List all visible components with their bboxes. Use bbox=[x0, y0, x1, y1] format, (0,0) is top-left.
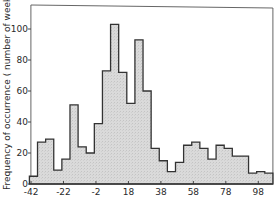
y-tick-label: 60 bbox=[16, 86, 28, 96]
histogram-bin bbox=[70, 105, 78, 184]
histogram-bin bbox=[38, 142, 46, 184]
x-tick-label: -22 bbox=[56, 187, 71, 197]
histogram-bin bbox=[167, 172, 175, 184]
histogram-bin bbox=[111, 24, 119, 184]
x-tick-label: -42 bbox=[24, 187, 39, 197]
y-axis-title: Frequency of occurrence ( number of week… bbox=[2, 0, 12, 190]
histogram-bin bbox=[240, 156, 248, 184]
histogram-bin bbox=[249, 173, 257, 184]
histogram-bin bbox=[46, 139, 54, 184]
histogram-bin bbox=[265, 173, 273, 184]
histogram-bin bbox=[192, 142, 200, 184]
histogram-bin bbox=[143, 91, 151, 184]
histogram-bin bbox=[151, 148, 159, 184]
y-tick-label: 20 bbox=[16, 148, 28, 158]
x-tick-label: 78 bbox=[220, 187, 232, 197]
x-tick-label: 18 bbox=[123, 187, 135, 197]
y-tick-label: 100 bbox=[11, 24, 28, 34]
histogram-bin bbox=[224, 148, 232, 184]
histogram-bars bbox=[29, 24, 272, 184]
x-tick-label: 58 bbox=[188, 187, 200, 197]
histogram-bin bbox=[78, 147, 86, 184]
histogram-bin bbox=[216, 145, 224, 184]
histogram-bin bbox=[232, 156, 240, 184]
histogram-bin bbox=[127, 103, 135, 184]
histogram-bin bbox=[119, 72, 127, 184]
histogram-bin bbox=[54, 170, 62, 184]
histogram-bin bbox=[62, 159, 70, 184]
x-tick-label: 38 bbox=[155, 187, 167, 197]
x-tick-label: 98 bbox=[253, 187, 265, 197]
histogram-bin bbox=[175, 162, 183, 184]
y-tick-label: 40 bbox=[16, 117, 28, 127]
histogram-bin bbox=[102, 71, 110, 184]
y-axis: 020406080100 bbox=[11, 24, 31, 189]
histogram-bin bbox=[208, 159, 216, 184]
histogram-bin bbox=[94, 124, 102, 184]
y-tick-label: 80 bbox=[16, 55, 28, 65]
histogram-chart: 020406080100 -42-22-21838587898 Frequenc… bbox=[0, 0, 276, 203]
histogram-bin bbox=[184, 145, 192, 184]
histogram-bin bbox=[159, 161, 167, 184]
histogram-bin bbox=[135, 40, 143, 184]
histogram-bin bbox=[86, 153, 94, 184]
histogram-bin bbox=[200, 148, 208, 184]
x-tick-label: -2 bbox=[91, 187, 100, 197]
